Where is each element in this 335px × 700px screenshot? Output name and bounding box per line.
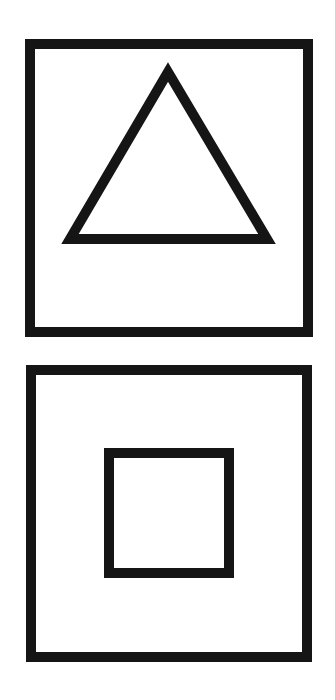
- square-icon: [104, 448, 234, 578]
